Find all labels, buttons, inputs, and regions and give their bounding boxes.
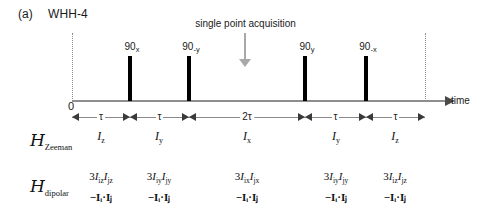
dipolar-cell-5: 3IizIjz−Iᵢ·Iⱼ <box>383 168 407 205</box>
pulse-flip-angle: 90 <box>125 41 136 52</box>
interval-label: τ <box>332 110 340 123</box>
zeeman-cell-4: Iy <box>332 129 340 145</box>
pulse-flip-angle: 90 <box>182 41 193 52</box>
dipolar-cell-3: 3IixIjx−Iᵢ·Iⱼ <box>235 168 260 205</box>
interval-3: 2τ <box>189 110 305 126</box>
dipolar-subscript: dipolar <box>45 188 69 198</box>
pulse-flip-angle: 90 <box>359 41 370 52</box>
time-axis-label: time <box>451 95 470 106</box>
acquisition-annotation-text: single point acquisition <box>188 18 303 29</box>
interval-label: τ <box>392 110 400 123</box>
arrow-left-icon <box>130 113 137 121</box>
whh4-pulse-sequence-figure: (a) WHH-4 single point acquisition time … <box>0 0 485 209</box>
interval-2: τ <box>130 110 189 126</box>
pulse-label-2: 90-y <box>182 41 199 52</box>
down-arrow-icon <box>239 59 251 67</box>
arrow-right-icon <box>123 113 130 121</box>
pulse-label-1: 90x <box>125 41 140 52</box>
dipolar-term-1: 3IizIjz <box>89 168 113 189</box>
interval-5: τ <box>366 110 425 126</box>
boundary-dotted-line-1 <box>72 33 73 101</box>
dipolar-term-2: −Iᵢ·Iⱼ <box>324 189 349 205</box>
pulse-label-4: 90-x <box>359 41 376 52</box>
arrow-right-icon <box>298 113 305 121</box>
zeeman-cell-2: Iy <box>155 129 163 145</box>
interval-label: 2τ <box>240 110 254 123</box>
arrow-right-icon <box>359 113 366 121</box>
boundary-dotted-line-2 <box>425 33 426 101</box>
pulse-bar-2 <box>187 56 191 101</box>
dipolar-term-2: −Iᵢ·Iⱼ <box>147 189 172 205</box>
pulse-flip-angle: 90 <box>300 41 311 52</box>
dipolar-term-1: 3IizIjz <box>383 168 407 189</box>
interval-label: τ <box>97 110 105 123</box>
figure-title: WHH-4 <box>48 7 88 21</box>
interval-label: τ <box>156 110 164 123</box>
pulse-bar-1 <box>128 56 132 101</box>
zeeman-cell-3: Ix <box>243 129 251 145</box>
interval-4: τ <box>305 110 366 126</box>
zeeman-script-h: H <box>30 130 45 150</box>
zeeman-cell-5: Iz <box>391 129 399 145</box>
acquisition-arrow-shaft <box>244 33 246 61</box>
dipolar-cell-2: 3IiyIjy−Iᵢ·Iⱼ <box>147 168 172 205</box>
arrow-left-icon <box>305 113 312 121</box>
dipolar-term-1: 3IiyIjy <box>324 168 349 189</box>
arrow-left-icon <box>189 113 196 121</box>
dipolar-term-2: −Iᵢ·Iⱼ <box>89 189 113 205</box>
dipolar-term-2: −Iᵢ·Iⱼ <box>235 189 260 205</box>
interval-1: τ <box>72 110 130 126</box>
dipolar-cell-1: 3IizIjz−Iᵢ·Iⱼ <box>89 168 113 205</box>
pulse-phase: x <box>136 45 140 54</box>
arrow-right-icon <box>182 113 189 121</box>
pulse-phase: -x <box>370 45 376 54</box>
dipolar-script-h: H <box>30 176 45 196</box>
pulse-bar-4 <box>364 56 368 101</box>
pulse-label-3: 90y <box>300 41 315 52</box>
pulse-phase: -y <box>193 45 199 54</box>
panel-label: (a) <box>18 7 33 21</box>
pulse-bar-3 <box>303 56 307 101</box>
zeeman-cell-1: Iz <box>97 129 105 145</box>
arrow-left-icon <box>72 113 79 121</box>
dipolar-term-1: 3IiyIjy <box>147 168 172 189</box>
pulse-phase: y <box>311 45 315 54</box>
dipolar-cell-4: 3IiyIjy−Iᵢ·Iⱼ <box>324 168 349 205</box>
dipolar-term-2: −Iᵢ·Iⱼ <box>383 189 407 205</box>
zeeman-hamiltonian-label: HZeeman <box>30 130 72 152</box>
zeeman-subscript: Zeeman <box>45 142 72 152</box>
dipolar-hamiltonian-label: Hdipolar <box>30 176 69 198</box>
dipolar-term-1: 3IixIjx <box>235 168 260 189</box>
arrow-right-icon <box>418 113 425 121</box>
arrow-left-icon <box>366 113 373 121</box>
